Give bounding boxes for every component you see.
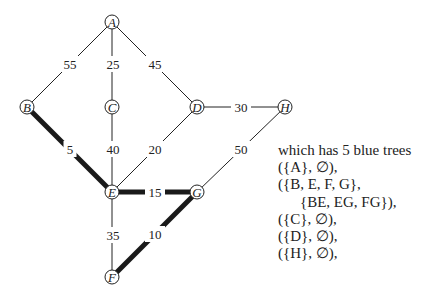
edge-weight-ab: 55	[64, 57, 77, 72]
node-label: G	[192, 185, 202, 200]
node-label: E	[107, 185, 116, 200]
caption-heading: which has 5 blue trees	[278, 142, 411, 159]
edge-weight-be: 5	[67, 142, 74, 157]
edge-weight-ac: 25	[107, 57, 120, 72]
node-label: C	[108, 100, 117, 115]
tree-entry: ({C}, ∅),	[278, 211, 411, 228]
edge-weight-de: 20	[149, 142, 162, 157]
tree-entry: ({D}, ∅),	[278, 228, 411, 245]
tree-entry: ({H}, ∅),	[278, 245, 411, 262]
edge-weight-eg: 15	[149, 185, 162, 200]
node-d: D	[190, 100, 204, 115]
edge-weight-gf: 10	[149, 227, 162, 242]
node-a: A	[105, 15, 119, 30]
node-h: H	[278, 100, 292, 115]
node-label: B	[23, 100, 31, 115]
edge-weight-dh: 30	[235, 100, 248, 115]
node-e: E	[105, 185, 119, 200]
node-label: D	[191, 100, 202, 115]
node-f: F	[105, 270, 119, 285]
edge-weight-labels: 552545305402050153510	[60, 56, 251, 243]
tree-entry: ({A}, ∅),	[278, 159, 411, 176]
tree-entry: {BE, EG, FG}),	[278, 194, 411, 211]
blue-trees-caption: which has 5 blue trees({A}, ∅),({B, E, F…	[278, 142, 411, 262]
node-b: B	[20, 100, 34, 115]
edge-weight-ad: 45	[149, 57, 162, 72]
edge-weight-ce: 40	[107, 142, 120, 157]
node-g: G	[190, 185, 204, 200]
node-c: C	[105, 100, 119, 115]
tree-entry: ({B, E, F, G},	[278, 176, 411, 193]
node-label: F	[107, 270, 117, 285]
node-label: A	[107, 15, 116, 30]
edge-weight-ef: 35	[107, 228, 120, 243]
edge-weight-hg: 50	[235, 142, 248, 157]
node-label: H	[279, 100, 290, 115]
